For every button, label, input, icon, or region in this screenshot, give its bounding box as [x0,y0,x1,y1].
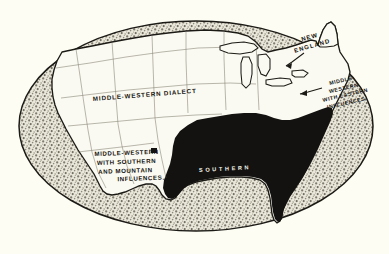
lake-ontario [292,70,308,77]
figure-page: AMERICAN DIALECTS [0,0,389,254]
lake-erie [266,78,292,86]
dialect-map [0,0,389,254]
panhandle-marker [151,148,157,153]
lake-michigan [241,57,252,88]
